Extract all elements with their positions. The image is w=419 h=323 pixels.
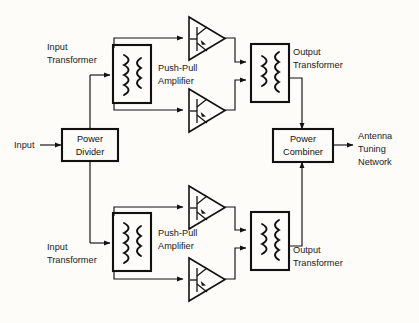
push-pull-top-label-line2: Amplifier — [158, 76, 194, 86]
transistor-icon — [190, 268, 207, 292]
input-transformer-bottom-block[interactable] — [113, 213, 151, 271]
wiring-layer — [40, 38, 353, 279]
push-pull-bottom-label-line2: Amplifier — [158, 241, 194, 251]
output-transformer-top-rect[interactable] — [251, 44, 289, 102]
input-transformer-top-label-line1: Input — [47, 42, 68, 52]
output-transformer-top-label-line1: Output — [293, 47, 321, 57]
power-divider-block[interactable]: Power Divider — [62, 129, 118, 161]
amplifier-top-lower-block[interactable] — [189, 89, 225, 132]
input-transformer-top-rect[interactable] — [113, 45, 151, 103]
amplifier-bottom-upper-block[interactable] — [189, 186, 225, 229]
antenna-label-line3: Network — [358, 157, 392, 167]
amplifier-top-upper-block[interactable] — [189, 17, 225, 60]
input-transformer-bottom-label-line1: Input — [47, 242, 68, 252]
block-diagram-canvas: Power Divider — [0, 0, 419, 323]
input-transformer-bottom-label-line2: Transformer — [47, 255, 97, 265]
input-label: Input — [14, 140, 35, 150]
transistor-icon — [190, 99, 207, 123]
input-transformer-bottom-rect[interactable] — [113, 213, 151, 271]
push-pull-top-label-line1: Push-Pull — [158, 63, 197, 73]
input-transformer-top-block[interactable] — [113, 45, 151, 103]
power-combiner-label-line1: Power — [290, 134, 316, 144]
power-divider-label-line2: Divider — [76, 147, 105, 157]
output-transformer-bottom-label-line2: Transformer — [293, 258, 343, 268]
output-transformer-bottom-block[interactable] — [251, 212, 289, 270]
wire-itf-bottom-to-amp-upper — [114, 207, 183, 216]
output-transformer-top-label-line2: Transformer — [293, 60, 343, 70]
output-transformer-bottom-label-line1: Output — [293, 245, 321, 255]
input-transformer-top-secondary-coil — [137, 58, 141, 88]
transistor-icon — [190, 27, 207, 51]
wire-otf-top-to-combiner — [288, 78, 302, 129]
output-transformer-bottom-rect[interactable] — [251, 212, 289, 270]
output-transformer-top-primary-coil — [262, 56, 267, 86]
wire-amp-bupper-to-otf-bottom — [223, 207, 246, 230]
power-combiner-block[interactable]: Power Combiner — [273, 129, 333, 162]
output-transformer-bottom-secondary-coil — [275, 220, 279, 260]
input-transformer-top-label-line2: Transformer — [47, 55, 97, 65]
wire-itf-top-to-amp-upper — [114, 38, 183, 48]
push-pull-bottom-label-line1: Push-Pull — [158, 228, 197, 238]
input-transformer-bottom-secondary-coil — [137, 226, 141, 256]
output-transformer-top-block[interactable] — [251, 44, 289, 102]
input-transformer-top-primary-coil — [124, 55, 129, 95]
wire-otf-bottom-to-combiner — [288, 162, 302, 246]
label-layer: Input Input Transformer Push-Pull Amplif… — [14, 42, 393, 268]
transistor-icon — [190, 196, 207, 220]
power-divider-label-line1: Power — [77, 134, 103, 144]
antenna-label-line2: Tuning — [358, 144, 386, 154]
antenna-label-line1: Antenna — [358, 131, 393, 141]
amplifier-bottom-lower-block[interactable] — [189, 258, 225, 301]
power-combiner-label-line2: Combiner — [283, 147, 323, 157]
diagram-page: Power Divider — [0, 0, 419, 323]
output-transformer-top-secondary-coil — [275, 52, 279, 92]
wire-amp-blower-to-otf-bottom — [223, 248, 246, 279]
wire-amp-upper-to-otf-top — [223, 38, 246, 62]
wire-amp-lower-to-otf-top — [223, 80, 246, 110]
output-transformer-bottom-primary-coil — [262, 224, 267, 254]
input-transformer-bottom-primary-coil — [124, 223, 129, 263]
